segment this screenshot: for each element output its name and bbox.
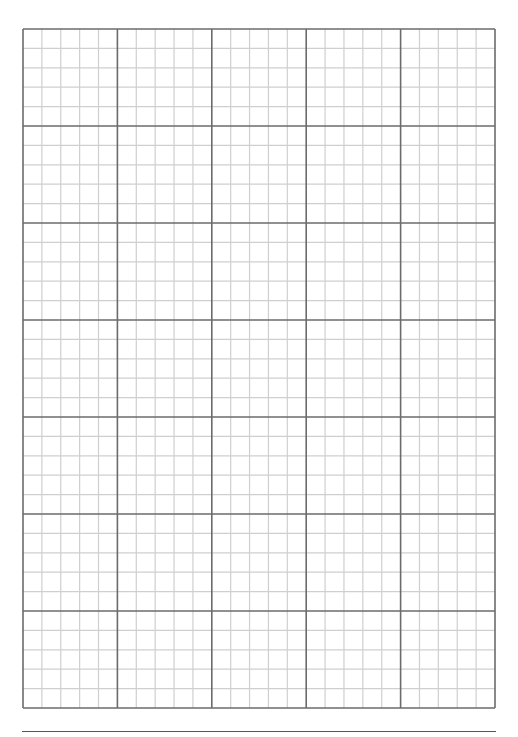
graph-grid (23, 29, 495, 708)
footer-rule (22, 731, 496, 732)
grid-lines (23, 29, 495, 708)
graph-paper-page (0, 0, 518, 737)
